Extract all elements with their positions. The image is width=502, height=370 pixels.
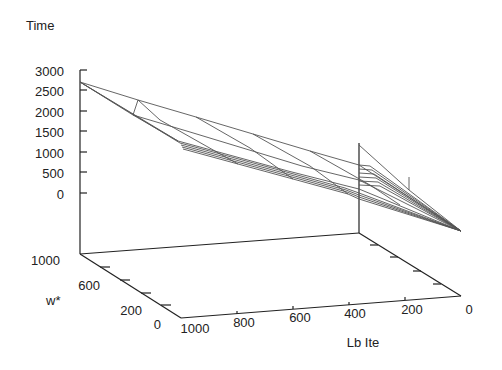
surface-mesh: [80, 82, 461, 231]
y-tick: 200: [120, 303, 142, 318]
z-tick: 2500: [35, 84, 64, 99]
x-tick: 400: [344, 306, 366, 321]
y-tick: 0: [154, 317, 161, 332]
x-tick: 200: [401, 302, 423, 317]
z-tick: 3000: [35, 64, 64, 79]
y-tick: 600: [78, 278, 100, 293]
z-tick: 1500: [35, 125, 64, 140]
z-tick: 1000: [35, 146, 64, 161]
z-tick: 500: [42, 166, 64, 181]
y-axis-title: w*: [45, 293, 60, 308]
y-tick: 1000: [31, 253, 60, 268]
x-axis-title: Lb Ite: [347, 335, 380, 350]
z-axis: [80, 70, 87, 254]
x-tick: 1000: [181, 321, 210, 336]
x-tick: 600: [289, 310, 311, 325]
z-tick: 0: [57, 187, 64, 202]
z-tick: 2000: [35, 105, 64, 120]
z-axis-tick-labels: 3000 2500 2000 1500 1000 500 0: [35, 64, 64, 202]
x-tick: 800: [233, 315, 255, 330]
z-axis-title: Time: [26, 18, 54, 33]
x-tick: 0: [465, 302, 472, 317]
surface-chart: Time 3000 2500 2000 1500 1000 500 0: [0, 0, 502, 370]
